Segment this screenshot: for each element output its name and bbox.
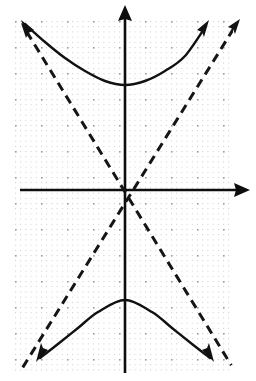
graph-canvas xyxy=(0,0,256,381)
hyperbola-figure xyxy=(0,0,256,381)
